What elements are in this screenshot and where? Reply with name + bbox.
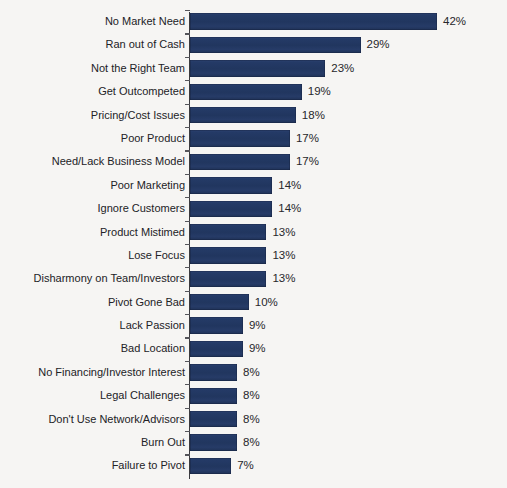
- bar-track: 8%: [190, 408, 507, 431]
- category-label: Ran out of Cash: [106, 33, 186, 56]
- bar: [190, 154, 290, 170]
- bar-track: 9%: [190, 337, 507, 360]
- bar-rows: No Market Need42%Ran out of Cash29%Not t…: [0, 10, 507, 478]
- category-label: Poor Marketing: [110, 174, 185, 197]
- bar: [190, 37, 361, 53]
- category-label: Pivot Gone Bad: [108, 291, 185, 314]
- axis-tick: [185, 291, 190, 292]
- bar: [190, 411, 237, 427]
- bar: [190, 271, 266, 287]
- axis-tick: [185, 244, 190, 245]
- axis-tick: [185, 104, 190, 105]
- bar-value-label: 8%: [243, 408, 260, 431]
- bar-row: Legal Challenges8%: [0, 384, 507, 407]
- category-label: Legal Challenges: [100, 384, 185, 407]
- bar-row: Lack Passion9%: [0, 314, 507, 337]
- bar-row: Bad Location9%: [0, 337, 507, 360]
- bar-track: 13%: [190, 221, 507, 244]
- bar: [190, 130, 290, 146]
- bar-track: 14%: [190, 197, 507, 220]
- bar-row: Don't Use Network/Advisors8%: [0, 408, 507, 431]
- category-label: No Financing/Investor Interest: [38, 361, 185, 384]
- axis-tick: [185, 174, 190, 175]
- category-label: Lose Focus: [128, 244, 185, 267]
- bar: [190, 317, 243, 333]
- bar: [190, 107, 296, 123]
- bar-row: Disharmony on Team/Investors13%: [0, 267, 507, 290]
- bar-row: Poor Marketing14%: [0, 174, 507, 197]
- axis-tick: [185, 80, 190, 81]
- category-label: Need/Lack Business Model: [52, 150, 185, 173]
- axis-tick: [185, 221, 190, 222]
- category-label: Get Outcompeted: [98, 80, 185, 103]
- category-label: No Market Need: [105, 10, 185, 33]
- axis-tick: [185, 431, 190, 432]
- bar-value-label: 29%: [367, 33, 390, 56]
- bar-row: Ran out of Cash29%: [0, 33, 507, 56]
- bar: [190, 201, 272, 217]
- bar-track: 13%: [190, 267, 507, 290]
- bar-row: Lose Focus13%: [0, 244, 507, 267]
- category-label: Poor Product: [121, 127, 185, 150]
- bar-value-label: 9%: [249, 337, 266, 360]
- axis-tick: [185, 267, 190, 268]
- category-label: Ignore Customers: [98, 197, 185, 220]
- bar-value-label: 7%: [237, 454, 254, 477]
- bar-row: No Market Need42%: [0, 10, 507, 33]
- category-label: Not the Right Team: [91, 57, 185, 80]
- category-label: Burn Out: [141, 431, 185, 454]
- bar-value-label: 8%: [243, 361, 260, 384]
- bar-track: 17%: [190, 127, 507, 150]
- bar-track: 17%: [190, 150, 507, 173]
- bar-track: 8%: [190, 361, 507, 384]
- bar-track: 8%: [190, 384, 507, 407]
- bar-track: 23%: [190, 57, 507, 80]
- bar-value-label: 14%: [278, 197, 301, 220]
- axis-tick: [185, 361, 190, 362]
- bar: [190, 294, 249, 310]
- bar: [190, 458, 231, 474]
- bar: [190, 341, 243, 357]
- bar-row: Ignore Customers14%: [0, 197, 507, 220]
- bar: [190, 388, 237, 404]
- axis-tick: [185, 314, 190, 315]
- category-label: Pricing/Cost Issues: [91, 104, 185, 127]
- bar-track: 8%: [190, 431, 507, 454]
- chart-title: [0, 0, 507, 3]
- bar-track: 9%: [190, 314, 507, 337]
- bar-value-label: 19%: [308, 80, 331, 103]
- category-label: Lack Passion: [120, 314, 185, 337]
- bar-value-label: 23%: [331, 57, 354, 80]
- axis-tick: [185, 384, 190, 385]
- bar-value-label: 17%: [296, 150, 319, 173]
- bar: [190, 13, 437, 29]
- axis-tick: [185, 10, 190, 11]
- bar-row: Pivot Gone Bad10%: [0, 291, 507, 314]
- plot-area: No Market Need42%Ran out of Cash29%Not t…: [0, 10, 507, 480]
- axis-tick: [185, 127, 190, 128]
- bar: [190, 364, 237, 380]
- category-label: Product Mistimed: [100, 221, 185, 244]
- bar-value-label: 17%: [296, 127, 319, 150]
- bar-value-label: 18%: [302, 104, 325, 127]
- axis-tick: [185, 33, 190, 34]
- bar-value-label: 42%: [443, 10, 466, 33]
- axis-tick: [185, 57, 190, 58]
- category-label: Failure to Pivot: [112, 454, 185, 477]
- bar-row: Need/Lack Business Model17%: [0, 150, 507, 173]
- bar-row: Product Mistimed13%: [0, 221, 507, 244]
- bar-value-label: 13%: [272, 267, 295, 290]
- bar-value-label: 14%: [278, 174, 301, 197]
- bar-track: 18%: [190, 104, 507, 127]
- horizontal-bar-chart: No Market Need42%Ran out of Cash29%Not t…: [0, 0, 507, 488]
- bar-row: Failure to Pivot7%: [0, 454, 507, 477]
- bar-value-label: 8%: [243, 431, 260, 454]
- axis-tick: [185, 408, 190, 409]
- bar-track: 42%: [190, 10, 507, 33]
- axis-tick: [185, 197, 190, 198]
- category-label: Bad Location: [121, 337, 185, 360]
- bar-track: 29%: [190, 33, 507, 56]
- bar-row: Pricing/Cost Issues18%: [0, 104, 507, 127]
- bar-row: Not the Right Team23%: [0, 57, 507, 80]
- bar: [190, 247, 266, 263]
